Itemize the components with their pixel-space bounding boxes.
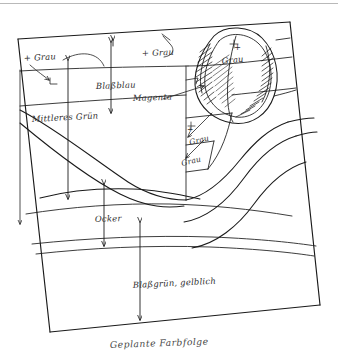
sketch-caption: Geplante Farbfolge: [110, 336, 209, 350]
label-grau-top-left: + Grau: [24, 51, 57, 63]
label-grau-leaf: Grau: [221, 54, 244, 66]
label-ocker: Ocker: [95, 213, 123, 224]
label-grau-leaf-plus: +: [234, 42, 241, 52]
label-grau-top-center: + Grau: [142, 47, 175, 58]
label-magenta: Magenta: [132, 92, 173, 103]
label-blassblau: Blaßblau: [95, 80, 136, 91]
annotation-labels: + Grau + Grau + Grau Blaßblau Magenta Mi…: [24, 42, 245, 290]
sketch-drawing: + Grau + Grau + Grau Blaßblau Magenta Mi…: [0, 0, 338, 360]
sketch-sheet: + Grau + Grau + Grau Blaßblau Magenta Mi…: [0, 0, 338, 360]
leader-arc-top: [63, 54, 104, 66]
leader-magenta-hook: [186, 78, 198, 84]
label-mittleres-gruen: Mittleres Grün: [31, 111, 99, 125]
label-grau-mid-plus: +: [187, 125, 194, 134]
label-blassgruen: Blaßgrün, gelblich: [132, 276, 217, 290]
leader-grau-top-left: [30, 65, 49, 80]
contour-bands: [20, 57, 316, 256]
leader-grau-top-left-hook: [50, 78, 57, 84]
label-grau-mid-lower: Grau: [180, 154, 202, 168]
